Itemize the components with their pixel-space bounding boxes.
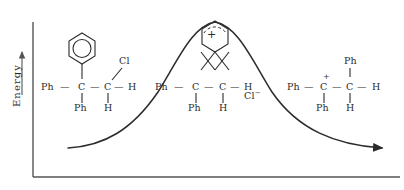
reactant-below-c1: Ph (74, 103, 87, 113)
product-above-c2: Ph (344, 56, 357, 66)
ts-counter-ion-charge: − (255, 89, 261, 97)
product-atom-c2: C (346, 82, 353, 92)
ts-bond-3: — (230, 82, 240, 92)
ts-below-c1: Ph (188, 103, 201, 113)
product-bond-2: — (332, 82, 342, 92)
reactant-chlorine: Cl (119, 56, 130, 66)
benzene-ring-icon (69, 33, 95, 64)
product-bond-3: — (357, 82, 367, 92)
bond-c2-cl (112, 68, 122, 80)
product-right-group: H (372, 82, 381, 92)
product-left-group: Ph (287, 82, 300, 92)
energy-diagram-figure: Energy Ph — C — C — H Ph H Cl + Ph — C —… (0, 0, 404, 190)
axes (22, 22, 400, 177)
reactant-atom-c1: C (78, 82, 85, 92)
ts-below-c2: H (219, 103, 228, 113)
reactant-bond-3: — (114, 82, 124, 92)
reactant-bond-2: — (90, 82, 100, 92)
reactant-left-group: Ph (41, 82, 54, 92)
ts-bond-1: — (174, 82, 184, 92)
ts-atom-c2: C (219, 82, 226, 92)
product-atom-c1: C (320, 82, 327, 92)
ts-atom-c1: C (192, 82, 199, 92)
diagram-vector-layer (0, 0, 404, 190)
reactant-bond-1: — (60, 82, 70, 92)
product-bond-1: — (304, 82, 314, 92)
product-carbocation-charge: + (323, 72, 330, 82)
reactant-right-group: H (128, 82, 137, 92)
ts-bond-2: — (204, 82, 214, 92)
ts-positive-charge: + (207, 30, 216, 40)
product-below-c2: H (346, 103, 355, 113)
ts-left-group: Ph (155, 82, 168, 92)
y-axis-label: Energy (11, 54, 22, 118)
product-below-c1: Ph (316, 103, 329, 113)
reactant-below-c2: H (104, 103, 113, 113)
ts-counter-ion-label: Cl (244, 90, 255, 101)
reactant-structure (69, 33, 122, 103)
ts-counter-ion: Cl− (244, 88, 261, 101)
reactant-atom-c2: C (104, 82, 111, 92)
